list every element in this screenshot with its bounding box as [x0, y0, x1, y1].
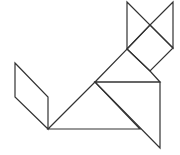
ear-right-triangle: [150, 2, 173, 48]
body-large-triangle: [48, 82, 140, 129]
ear-left-triangle: [127, 2, 150, 49]
tangram-cat-diagram: [0, 0, 180, 155]
head-square: [127, 25, 173, 71]
neck-triangle: [95, 49, 160, 82]
tangram-pieces: [15, 2, 173, 148]
body-right-triangle: [95, 82, 160, 148]
tail-parallelogram: [15, 63, 48, 129]
